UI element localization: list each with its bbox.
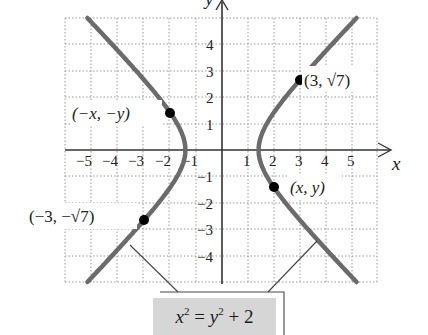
eq-rhs-exp: 2 (218, 305, 224, 317)
point-neg3-neg-sqrt7 (139, 215, 149, 225)
x-tick: 3 (295, 153, 303, 169)
x-tick: 5 (347, 153, 355, 169)
equation-box: x2 = y2 + 2 (153, 298, 276, 335)
label-neg-x-neg-y: (−x, −y) (72, 104, 130, 123)
y-tick: 3 (206, 64, 214, 80)
label-x-y: (x, y) (290, 178, 325, 197)
eq-sign: = (194, 306, 205, 327)
x-tick: −3 (128, 153, 144, 169)
point-x-y (269, 182, 279, 192)
y-tick: −1 (197, 169, 213, 185)
equation: x2 = y2 + 2 (176, 305, 254, 328)
y-tick-labels: 4 3 2 1 −1 −2 −3 −4 (197, 37, 214, 265)
x-axis-label: x (391, 153, 401, 174)
x-tick-labels: −5 −4 −3 −2 −1 1 2 3 4 5 (76, 153, 355, 169)
x-tick: −4 (102, 153, 118, 169)
y-tick: −4 (197, 249, 213, 265)
x-tick: 2 (269, 153, 277, 169)
y-tick: 4 (206, 37, 214, 53)
eq-rhs-var: y (210, 306, 218, 327)
eq-lhs-var: x (176, 306, 184, 327)
label-3-sqrt7: (3, √7) (304, 71, 350, 90)
label-neg3-neg-sqrt7: (−3, −√7) (29, 207, 94, 226)
y-tick: −3 (197, 222, 213, 238)
x-tick: 1 (243, 153, 251, 169)
x-tick: −5 (76, 153, 92, 169)
y-tick: −2 (197, 196, 213, 212)
y-axis (216, 0, 228, 284)
y-tick: 2 (206, 90, 214, 106)
hyperbola-graph: x y −5 −4 −3 −2 −1 1 2 3 4 5 4 3 2 1 −1 … (0, 0, 428, 335)
point-neg-x-neg-y (165, 108, 175, 118)
x-tick: 4 (321, 153, 329, 169)
y-axis-label: y (203, 0, 214, 9)
y-tick: 1 (206, 117, 214, 133)
eq-lhs-exp: 2 (184, 305, 190, 317)
x-tick: −2 (155, 153, 171, 169)
eq-rhs-rest: + 2 (228, 306, 253, 327)
